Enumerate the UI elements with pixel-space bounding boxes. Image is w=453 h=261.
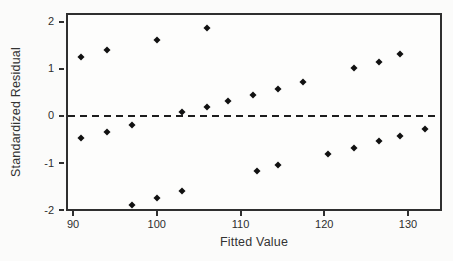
y-tick-label: -1 (0, 157, 54, 169)
x-tick-label: 130 (399, 218, 417, 230)
y-axis-tick (59, 162, 64, 164)
x-tick-label: 100 (148, 218, 166, 230)
x-tick-label: 120 (315, 218, 333, 230)
y-axis-tick (59, 68, 64, 70)
y-tick-label: 2 (0, 15, 54, 27)
x-axis-tick (156, 211, 158, 216)
x-axis-tick (240, 211, 242, 216)
x-axis-tick (407, 211, 409, 216)
plot-area (66, 13, 442, 211)
x-axis-title: Fitted Value (66, 235, 442, 249)
x-tick-label: 110 (232, 218, 250, 230)
y-tick-label: 0 (0, 109, 54, 121)
y-axis-tick (59, 115, 64, 117)
zero-reference-line (68, 115, 440, 117)
residual-scatter-plot-figure: Standardized Residual Fitted Value 90100… (0, 0, 453, 261)
x-axis-tick (323, 211, 325, 216)
y-tick-label: 1 (0, 62, 54, 74)
x-axis-tick (72, 211, 74, 216)
y-axis-tick (59, 209, 64, 211)
y-tick-label: -2 (0, 204, 54, 216)
y-axis-tick (59, 21, 64, 23)
x-tick-label: 90 (67, 218, 79, 230)
